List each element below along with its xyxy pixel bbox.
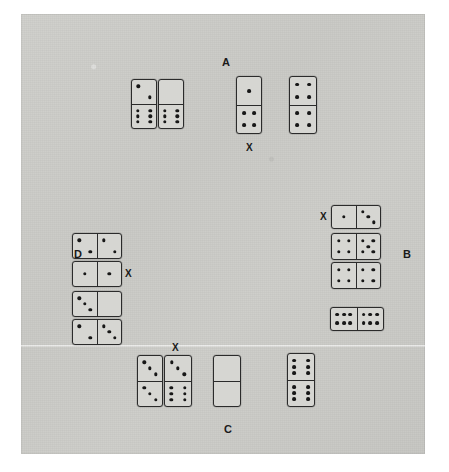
pip: [292, 365, 296, 369]
pip: [306, 359, 310, 363]
domino-half-right: [98, 234, 122, 258]
pip: [292, 397, 296, 401]
domino-tile-c-4[interactable]: [287, 353, 315, 407]
pip: [136, 109, 139, 112]
domino-half-right: [98, 320, 122, 344]
pip: [307, 111, 311, 115]
domino-half-top: [165, 356, 191, 382]
pip: [347, 239, 350, 242]
pip: [149, 115, 152, 118]
domino-half-top: [214, 356, 240, 382]
pip: [77, 297, 80, 300]
pip: [342, 321, 346, 325]
domino-half-left: [331, 308, 358, 330]
pip: [368, 313, 372, 317]
pip: [149, 120, 152, 123]
pip: [372, 279, 375, 282]
pip: [83, 272, 86, 275]
domino-half-bottom: [165, 382, 191, 407]
pip: [149, 109, 152, 112]
domino-half-top: [288, 354, 314, 381]
domino-tile-c-3[interactable]: [213, 355, 241, 407]
domino-tile-c-2[interactable]: [164, 355, 192, 407]
pip: [306, 371, 310, 375]
pip: [335, 321, 339, 325]
domino-tile-a-4[interactable]: [289, 76, 317, 134]
x-mark-d: X: [125, 269, 132, 279]
label-d: D: [74, 249, 82, 260]
pip: [337, 279, 340, 282]
pip: [143, 361, 146, 364]
domino-half-bottom: [214, 382, 240, 407]
pip: [372, 221, 375, 224]
pip: [335, 313, 339, 317]
domino-half-bottom: [288, 381, 314, 407]
pip: [154, 398, 157, 401]
domino-tile-a-1[interactable]: [131, 79, 157, 129]
figure-canvas: ABCDXXXX: [0, 0, 449, 472]
domino-tile-b-4[interactable]: [330, 307, 384, 331]
pip: [342, 313, 346, 317]
pip: [252, 111, 256, 115]
domino-tile-c-1[interactable]: [137, 355, 163, 407]
pip: [137, 84, 140, 87]
pip: [292, 359, 296, 363]
domino-tile-d-4[interactable]: [72, 319, 122, 345]
pip: [348, 321, 352, 325]
domino-tile-b-2[interactable]: [331, 233, 381, 260]
domino-half-bottom: [159, 105, 183, 129]
domino-half-top: [132, 80, 156, 105]
domino-half-bottom: [138, 382, 162, 407]
domino-tile-a-3[interactable]: [236, 76, 262, 134]
pip: [102, 239, 105, 242]
pip: [292, 385, 296, 389]
pip: [307, 123, 311, 127]
pip: [176, 109, 179, 112]
pip: [307, 95, 311, 99]
label-b: B: [403, 249, 411, 260]
domino-tile-b-1[interactable]: [331, 205, 381, 229]
pip: [183, 386, 186, 389]
domino-tile-a-2[interactable]: [158, 79, 184, 129]
pip: [154, 372, 157, 375]
domino-tile-d-3[interactable]: [72, 291, 122, 317]
pip: [295, 95, 299, 99]
pip: [163, 109, 166, 112]
pip: [295, 83, 299, 87]
pip: [176, 367, 179, 370]
domino-half-right: [357, 263, 381, 288]
domino-half-left: [332, 263, 357, 288]
pip: [372, 239, 375, 242]
pip: [306, 397, 310, 401]
pip: [183, 372, 186, 375]
domino-half-left: [332, 206, 357, 228]
domino-tile-b-3[interactable]: [331, 262, 381, 289]
pip: [292, 391, 296, 395]
pip: [362, 313, 366, 317]
pip: [170, 361, 173, 364]
pip: [176, 115, 179, 118]
domino-half-top: [290, 77, 316, 106]
pip: [242, 111, 246, 115]
domino-half-bottom: [237, 106, 261, 134]
pip: [102, 325, 105, 328]
pip: [337, 250, 340, 253]
pip: [176, 120, 179, 123]
pip: [375, 313, 379, 317]
pip: [367, 245, 370, 248]
pip: [361, 239, 364, 242]
pip: [148, 392, 151, 395]
domino-half-top: [159, 80, 183, 105]
pip: [347, 250, 350, 253]
pip: [372, 250, 375, 253]
pip: [163, 120, 166, 123]
pip: [83, 302, 86, 305]
domino-half-top: [138, 356, 162, 382]
pip: [368, 321, 372, 325]
pip: [337, 268, 340, 271]
label-c: C: [224, 424, 232, 435]
domino-half-left: [73, 262, 98, 286]
domino-half-left: [73, 292, 98, 316]
domino-tile-d-2[interactable]: [72, 261, 122, 287]
pip: [342, 215, 345, 218]
